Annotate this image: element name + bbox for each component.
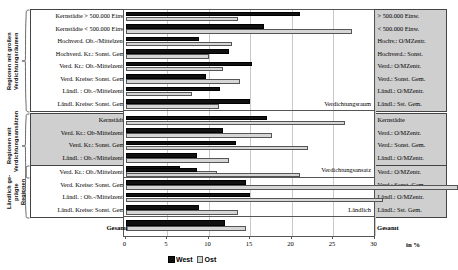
bar-west-total xyxy=(126,220,226,225)
bar-ost xyxy=(126,67,224,71)
bar-row xyxy=(124,35,374,48)
bar-west xyxy=(126,12,300,16)
bar-ost xyxy=(126,146,309,150)
category-label: < 500.000 Einw. xyxy=(375,23,446,36)
category-label: Ländl.: O/MZentr. xyxy=(375,85,446,98)
bar-ost xyxy=(126,185,458,189)
category-label: Kernstädte xyxy=(31,114,128,127)
bar-west xyxy=(126,49,230,53)
bar-row xyxy=(124,114,374,127)
brace-group-3 xyxy=(21,165,30,219)
bar-row xyxy=(124,10,374,23)
legend-item-ost: Ost xyxy=(197,256,217,263)
category-label: Hochverd. Ob.-/Mittelzent. xyxy=(31,35,128,48)
category-label: Ländl.: Sst. Gem. xyxy=(375,98,446,111)
bar-row xyxy=(124,139,374,152)
x-tick-label: 25 xyxy=(329,240,336,247)
category-label: Verd. Kr.: Ob-Mittelzentr. xyxy=(31,127,128,140)
category-label: Ländl. : Ob.-/Mittelzentr. xyxy=(31,152,128,165)
bar-row xyxy=(124,73,374,86)
x-tick-mark xyxy=(125,237,126,239)
category-label: Verd.: O/MZentr. xyxy=(375,127,446,140)
bar-west xyxy=(126,180,246,184)
category-label: Hochv.: O/MZentr. xyxy=(375,35,446,48)
bar-row xyxy=(124,127,374,140)
bar-row xyxy=(124,166,374,179)
category-label: Hochverd. Kr.: Sonst. Gem. xyxy=(31,48,128,61)
x-tick-mark xyxy=(208,237,209,239)
bar-ost xyxy=(126,210,238,214)
legend-item-west: West xyxy=(168,256,193,263)
bar-row xyxy=(124,23,374,36)
category-label: Verd. Kreise: Sonst. Gem. xyxy=(31,73,128,86)
category-label: Ländl.: Sst. Gem. xyxy=(375,204,446,217)
legend-swatch-west-icon xyxy=(168,256,175,263)
right-label-block-group-3: Verd.: O/MZentr.Verd.: Sonst. Gem.Ländl.… xyxy=(374,165,447,218)
bar-west xyxy=(126,193,251,197)
category-label: Hochverd.: Sonst. xyxy=(375,48,446,61)
brace-group-1 xyxy=(21,9,30,113)
group-separator xyxy=(124,110,374,111)
group-caption-verdichtungsansaetze: Regionen mitVerdichtungsansätzen xyxy=(6,120,20,172)
legend-label-ost: Ost xyxy=(205,256,217,263)
bar-ost xyxy=(126,173,300,177)
x-tick-label: 10 xyxy=(204,240,211,247)
category-label: Verd. Kr.: Sonst. Gem. xyxy=(31,139,128,152)
group-separator xyxy=(124,216,374,217)
category-label: Ländl. Kreise: Sonst. Gem. xyxy=(31,204,128,217)
category-label: Ländl. : Ob.-/Mittelzentr. xyxy=(31,191,128,204)
x-tick-mark xyxy=(166,237,167,239)
bar-ost xyxy=(126,198,383,202)
bar-west xyxy=(126,141,236,145)
category-label: Verd.: O/MZentr. xyxy=(375,166,446,179)
bar-ost xyxy=(126,133,272,137)
category-label: Kernstädte > 500.000 Einw. xyxy=(31,10,128,23)
bar-west xyxy=(126,128,223,132)
total-right-label: Gesamt xyxy=(377,224,399,231)
group-overlay-label: Verdichtungsraum xyxy=(324,100,371,107)
x-axis-unit-label: in % xyxy=(406,241,420,248)
bar-ost xyxy=(126,17,238,21)
bar-row xyxy=(124,48,374,61)
category-label: Verd.: Sonst. Gem. xyxy=(375,73,446,86)
bar-row xyxy=(124,179,374,192)
category-label: Verd. Kr.: Ob./Mittelzentr. xyxy=(31,166,128,179)
bar-ost xyxy=(126,92,192,96)
category-label: Ländl.: O/MZentr. xyxy=(375,191,446,204)
bar-west xyxy=(126,24,265,28)
bar-ost xyxy=(126,29,353,33)
category-label: Ländl.: O/MZentr. xyxy=(375,152,446,165)
total-left-label: Gesamt xyxy=(60,224,128,231)
group-caption-laendlich: Ländlich ge-prägte Regionen xyxy=(6,170,20,214)
left-label-block-group-1: Kernstädte > 500.000 Einw.Kernstädte < 5… xyxy=(30,9,129,112)
bar-row xyxy=(124,60,374,73)
category-label: Verd.: Sonst. Gem. xyxy=(375,139,446,152)
bar-ost xyxy=(126,121,345,125)
bar-west xyxy=(126,168,197,172)
legend-swatch-ost-icon xyxy=(197,256,204,263)
bar-west xyxy=(126,74,207,78)
bar-west xyxy=(126,62,253,66)
bar-ost-total xyxy=(126,226,246,231)
bar-ost xyxy=(126,42,232,46)
category-label: Verd.: O/MZentr. xyxy=(375,60,446,73)
bar-west xyxy=(126,99,251,103)
x-tick-label: 5 xyxy=(164,240,167,247)
bar-ost xyxy=(126,79,241,83)
bar-west xyxy=(126,205,199,209)
bar-ost xyxy=(126,104,220,108)
bar-row xyxy=(124,152,374,165)
category-label: Ländl. : Ob.-/Mittelzentr. xyxy=(31,85,128,98)
x-tick-mark xyxy=(291,237,292,239)
category-label: > 500.000 Einw. xyxy=(375,10,446,23)
bar-west xyxy=(126,116,267,120)
bar-west xyxy=(126,153,197,157)
x-tick-label: 0 xyxy=(123,240,126,247)
x-tick-label: 15 xyxy=(246,240,253,247)
gridline xyxy=(375,10,376,236)
bar-west xyxy=(126,37,200,41)
bar-row xyxy=(124,191,374,204)
legend-label-west: West xyxy=(176,256,193,263)
bar-row xyxy=(124,204,374,217)
